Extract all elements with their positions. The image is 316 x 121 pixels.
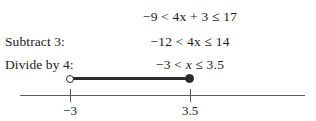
tick-label-left: −3	[40, 103, 100, 119]
step-row: Subtract 3: −12 < 4x ≤ 14	[0, 31, 316, 53]
tick-mark-left	[70, 89, 71, 102]
tick-mark-right	[190, 89, 191, 102]
tick-label-right: 3.5	[160, 103, 220, 119]
inequality-figure: −9 < 4x + 3 ≤ 17 Subtract 3: −12 < 4x ≤ …	[0, 0, 316, 121]
step-equation: −9 < 4x + 3 ≤ 17	[135, 6, 245, 28]
number-line-axis	[20, 95, 305, 96]
step-label-subtract: Subtract 3:	[5, 31, 65, 53]
solution-segment	[70, 77, 190, 80]
step-equation: −12 < 4x ≤ 14	[135, 31, 245, 53]
filled-circle-endpoint-icon	[185, 74, 194, 83]
number-line: −3 3.5	[0, 70, 316, 121]
open-circle-endpoint-icon	[66, 75, 74, 83]
step-row: −9 < 4x + 3 ≤ 17	[0, 6, 316, 28]
